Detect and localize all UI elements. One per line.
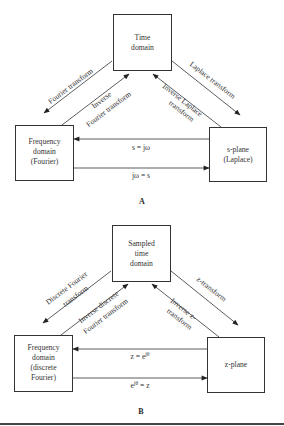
frequency-label-2: domain (33, 147, 56, 156)
sampled-label-2: time (135, 249, 149, 258)
dft-frequency-label-4: Fourier) (31, 373, 56, 382)
z-equals-ejtheta-label: z = ejθ (131, 351, 150, 361)
frequency-domain-fourier-node: Frequency domain (Fourier) (16, 126, 74, 181)
ejtheta-equals-z-label: ejθ = z (131, 380, 151, 390)
time-domain-label-1: Time (135, 33, 151, 42)
frequency-label-1: Frequency (28, 137, 60, 146)
s-equals-jw-label: s = jω (132, 143, 150, 152)
frequency-label-3: (Fourier) (31, 157, 59, 166)
diagram-b: Sampled time domain Frequency domain (di… (15, 226, 265, 417)
diagram-a: Time domain Frequency domain (Fourier) s… (16, 15, 267, 207)
fourier-transform-label: Fourier transform (46, 66, 94, 106)
sampled-time-domain-node: Sampled time domain (113, 226, 171, 282)
time-domain-label-2: domain (131, 43, 154, 52)
sampled-label-3: domain (130, 259, 153, 268)
laplace-transform-label: Laplace transform (188, 59, 237, 100)
diagram-a-caption: A (139, 197, 145, 206)
z-transform-label: z-transform (195, 275, 229, 304)
s-plane-label-1: s-plane (227, 145, 250, 154)
z-plane-node: z-plane (208, 338, 265, 393)
dft-frequency-label-3: (discrete (30, 363, 57, 372)
s-plane-node: s-plane (Laplace) (210, 128, 267, 182)
jw-equals-s-label: jω = s (131, 171, 150, 180)
s-plane-label-2: (Laplace) (223, 155, 253, 164)
transform-relationships-figure: Time domain Frequency domain (Fourier) s… (0, 0, 284, 426)
z-plane-label: z-plane (225, 360, 248, 369)
diagram-b-caption: B (138, 407, 144, 416)
dft-frequency-label-2: domain (32, 353, 55, 362)
time-domain-node: Time domain (114, 15, 172, 71)
dft-frequency-label-1: Frequency (27, 343, 59, 352)
sampled-label-1: Sampled (128, 239, 155, 248)
frequency-domain-discrete-node: Frequency domain (discrete Fourier) (15, 336, 73, 392)
